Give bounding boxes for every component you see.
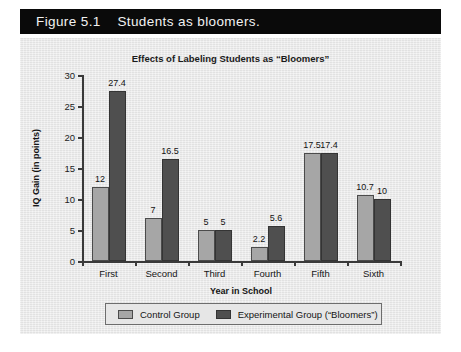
x-tick-mark xyxy=(135,261,137,266)
x-tick-mark xyxy=(347,261,349,266)
figure-container: Figure 5.1 Students as bloomers. Effects… xyxy=(0,0,461,352)
bar xyxy=(304,153,321,262)
chart-title: Effects of Labeling Students as “Bloomer… xyxy=(20,53,441,64)
y-axis-line xyxy=(82,75,84,261)
bar xyxy=(357,195,374,261)
legend-swatch-experimental xyxy=(216,310,231,319)
legend-swatch-control xyxy=(118,310,133,319)
bar-value-label: 16.5 xyxy=(161,146,179,156)
bar-value-label: 5 xyxy=(220,217,225,227)
legend-label: Control Group xyxy=(140,309,200,320)
bar-value-label: 12 xyxy=(95,174,105,184)
y-tick-label: 10 xyxy=(64,194,75,205)
x-tick-label: Sixth xyxy=(363,268,384,279)
x-tick-mark xyxy=(82,261,84,266)
y-tick-label: 25 xyxy=(64,101,75,112)
y-tick-mark xyxy=(78,106,82,108)
bar xyxy=(92,187,109,261)
bar-value-label: 10.7 xyxy=(356,182,374,192)
figure-caption-text: Figure 5.1 Students as bloomers. xyxy=(36,14,260,29)
chart-legend: Control GroupExperimental Group (“Bloome… xyxy=(105,303,382,325)
bar xyxy=(374,199,391,261)
y-tick-mark xyxy=(78,230,82,232)
x-tick-label: Fifth xyxy=(311,268,329,279)
x-tick-label: Fourth xyxy=(254,268,281,279)
bar-value-label: 10 xyxy=(377,186,387,196)
bar-value-label: 2.2 xyxy=(253,234,266,244)
y-tick-mark xyxy=(78,75,82,77)
y-axis-title: IQ Gain (in points) xyxy=(31,129,41,207)
chart-panel: Effects of Labeling Students as “Bloomer… xyxy=(20,38,441,334)
y-tick-mark xyxy=(78,137,82,139)
bar-value-label: 5 xyxy=(203,217,208,227)
bar xyxy=(162,159,179,261)
y-tick-label: 5 xyxy=(70,225,75,236)
legend-item[interactable]: Control Group xyxy=(118,309,200,320)
x-tick-label: Third xyxy=(204,268,226,279)
y-tick-label: 15 xyxy=(64,163,75,174)
bar xyxy=(251,247,268,261)
y-tick-label: 0 xyxy=(70,256,75,267)
bar-value-label: 7 xyxy=(150,205,155,215)
legend-label: Experimental Group (“Bloomers”) xyxy=(238,309,378,320)
bar xyxy=(215,230,232,261)
bar-value-label: 17.4 xyxy=(320,140,338,150)
bar xyxy=(321,153,338,261)
bar xyxy=(109,91,126,261)
x-tick-mark xyxy=(400,261,402,266)
bar-value-label: 17.5 xyxy=(303,140,321,150)
bar xyxy=(268,226,285,261)
y-tick-label: 20 xyxy=(64,132,75,143)
x-tick-label: First xyxy=(99,268,117,279)
x-axis-title: Year in School xyxy=(82,286,400,296)
bar-value-label: 5.6 xyxy=(270,213,283,223)
legend-item[interactable]: Experimental Group (“Bloomers”) xyxy=(216,309,378,320)
figure-caption-banner: Figure 5.1 Students as bloomers. xyxy=(20,9,441,34)
bar-value-label: 27.4 xyxy=(108,78,126,88)
x-tick-mark xyxy=(294,261,296,266)
x-tick-mark xyxy=(188,261,190,266)
y-tick-mark xyxy=(78,199,82,201)
y-tick-mark xyxy=(78,168,82,170)
bar xyxy=(145,218,162,261)
plot-area: IQ Gain (in points) Year in School 05101… xyxy=(82,75,400,261)
x-tick-label: Second xyxy=(145,268,177,279)
x-tick-mark xyxy=(241,261,243,266)
bar xyxy=(198,230,215,261)
y-tick-label: 30 xyxy=(64,70,75,81)
